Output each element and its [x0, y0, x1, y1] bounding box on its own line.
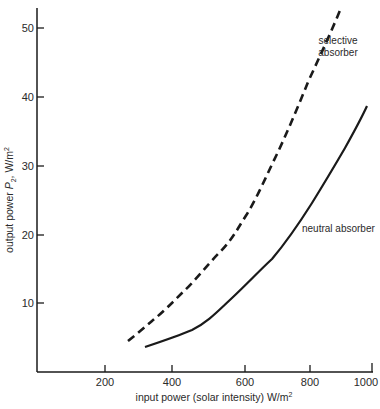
x-ticks: 200 400 600 800 1000	[96, 363, 378, 388]
x-axis-title: input power (solar intensity) W/m2	[136, 391, 293, 403]
selective-absorber-curve	[128, 8, 341, 341]
selective-absorber-label-line2: absorber	[318, 47, 358, 58]
x-tick-label: 400	[163, 376, 181, 388]
y-axis-title: output power P2, W/m2	[3, 147, 17, 253]
neutral-absorber-label: neutral absorber	[302, 223, 375, 234]
y-tick-label: 50	[22, 22, 34, 34]
x-tick-label: 800	[301, 376, 319, 388]
y-ticks: 50 40 30 20 10	[22, 22, 44, 309]
x-tick-label: 200	[96, 376, 114, 388]
y-tick-label: 30	[22, 160, 34, 172]
x-tick-label: 1000	[354, 376, 378, 388]
chart: 50 40 30 20 10 200 400 600 800 1000 inpu…	[0, 0, 380, 409]
selective-absorber-label: selective	[319, 35, 358, 46]
x-tick-label: 600	[236, 376, 254, 388]
y-tick-label: 10	[22, 297, 34, 309]
y-tick-label: 40	[22, 91, 34, 103]
y-tick-label: 20	[22, 229, 34, 241]
